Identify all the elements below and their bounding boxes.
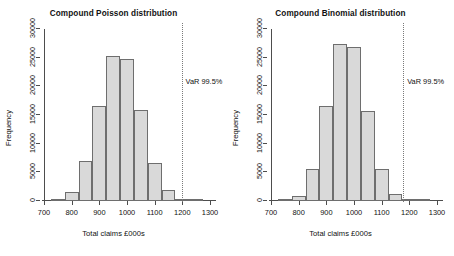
y-axis-line: [44, 29, 45, 201]
y-tick-label: 10000: [256, 133, 263, 153]
x-tick-mark: [354, 201, 355, 205]
x-tick-label: 800: [65, 208, 77, 217]
y-axis-title: Frequency: [4, 110, 13, 146]
histogram-bar: [333, 44, 347, 201]
panel-title: Compound Binomial distribution: [227, 9, 454, 18]
x-tick-label: 800: [292, 208, 304, 217]
x-tick-label: 900: [93, 208, 105, 217]
histogram-bar: [347, 47, 361, 201]
plot-area: 0500010000150002000025000300007008009001…: [271, 29, 437, 201]
y-tick-label: 20000: [29, 75, 36, 95]
var-line: [182, 23, 183, 202]
x-tick-label: 700: [265, 208, 277, 217]
y-tick-label: 30000: [256, 18, 263, 38]
x-axis-title: Total claims £000s: [227, 229, 454, 238]
histogram-bar: [361, 111, 375, 201]
x-tick-mark: [271, 201, 272, 205]
histogram-bar: [148, 163, 162, 201]
x-tick-mark: [409, 201, 410, 205]
x-tick-mark: [72, 201, 73, 205]
x-tick-label: 1200: [401, 208, 417, 217]
histogram-bar: [306, 169, 320, 201]
panel-compound-poisson: Compound Poisson distribution Frequency …: [0, 0, 227, 256]
histogram-bar: [416, 199, 430, 201]
x-tick-label: 1100: [374, 208, 390, 217]
histogram-bar: [292, 196, 306, 201]
var-line: [403, 23, 404, 202]
histogram-bar: [402, 199, 416, 201]
x-tick-mark: [99, 201, 100, 205]
histogram-bar: [389, 194, 403, 201]
x-axis-title: Total claims £000s: [0, 229, 227, 238]
x-tick-mark: [210, 201, 211, 205]
y-tick-label: 15000: [29, 104, 36, 124]
histogram-bar: [319, 106, 333, 201]
histogram-bar: [79, 161, 93, 201]
figure-two-histograms: Compound Poisson distribution Frequency …: [0, 0, 454, 256]
plot-area: 0500010000150002000025000300007008009001…: [44, 29, 210, 201]
x-tick-mark: [299, 201, 300, 205]
y-tick-label: 25000: [29, 47, 36, 67]
x-tick-label: 1000: [346, 208, 362, 217]
y-tick-label: 5000: [29, 163, 36, 179]
x-tick-label: 1200: [174, 208, 190, 217]
x-tick-mark: [127, 201, 128, 205]
y-tick-label: 0: [256, 198, 263, 202]
histogram-bar: [278, 199, 292, 201]
x-tick-mark: [44, 201, 45, 205]
y-axis-line: [271, 29, 272, 201]
histogram-bar: [375, 169, 389, 201]
histogram-bar: [162, 190, 176, 201]
x-tick-label: 1300: [202, 208, 218, 217]
y-tick-label: 10000: [29, 133, 36, 153]
x-tick-mark: [326, 201, 327, 205]
histogram-bar: [92, 106, 106, 201]
histogram-bar: [189, 199, 203, 201]
y-tick-label: 30000: [29, 18, 36, 38]
histogram-bar: [134, 110, 148, 201]
x-tick-label: 1100: [147, 208, 163, 217]
var-label: VaR 99.5%: [407, 77, 444, 86]
panel-title: Compound Poisson distribution: [0, 9, 227, 18]
y-axis-title: Frequency: [231, 110, 240, 146]
x-tick-mark: [155, 201, 156, 205]
y-tick-label: 25000: [256, 47, 263, 67]
histogram-bar: [51, 199, 65, 201]
var-label: VaR 99.5%: [186, 77, 223, 86]
x-tick-label: 1000: [119, 208, 135, 217]
y-tick-label: 5000: [256, 163, 263, 179]
x-tick-mark: [437, 201, 438, 205]
y-tick-label: 15000: [256, 104, 263, 124]
panel-compound-binomial: Compound Binomial distribution Frequency…: [227, 0, 454, 256]
histogram-bar: [65, 192, 79, 201]
x-tick-label: 700: [38, 208, 50, 217]
y-tick-label: 0: [29, 198, 36, 202]
x-tick-label: 900: [320, 208, 332, 217]
x-tick-label: 1300: [429, 208, 445, 217]
x-tick-mark: [382, 201, 383, 205]
histogram-bar: [106, 56, 120, 201]
y-tick-label: 20000: [256, 75, 263, 95]
histogram-bar: [120, 59, 134, 201]
